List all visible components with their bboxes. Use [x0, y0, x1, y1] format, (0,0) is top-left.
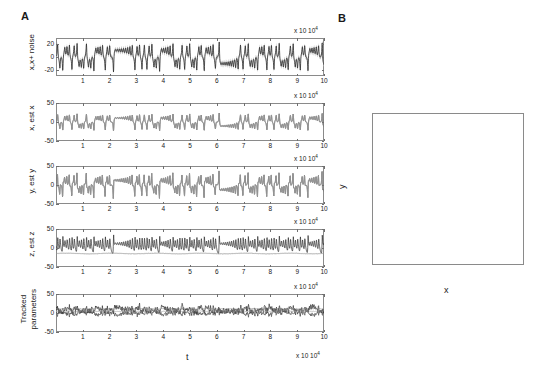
- y-tick-label: 50: [47, 226, 54, 233]
- x-exponent-label: x 10 104: [294, 92, 318, 99]
- x-tick-label: 1: [81, 334, 85, 341]
- y-tickmark: [56, 185, 59, 186]
- x-tick-label: 6: [215, 269, 219, 276]
- y-tickmark: [322, 185, 325, 186]
- y-tickmark: [322, 166, 325, 167]
- x-tickmark: [270, 166, 271, 169]
- x-tickmark: [190, 38, 191, 41]
- x-tick-label: 5: [188, 78, 192, 85]
- x-tickmark: [217, 229, 218, 232]
- plot-area: [56, 166, 324, 204]
- x-tick-label: 9: [295, 143, 299, 150]
- x-tick-label: 5: [188, 143, 192, 150]
- x-tick-label: 9: [295, 334, 299, 341]
- x-tickmark: [163, 103, 164, 106]
- x-tickmark: [190, 166, 191, 169]
- x-tickmark: [217, 103, 218, 106]
- x-tick-label: 5: [188, 269, 192, 276]
- x-tickmark: [136, 294, 137, 297]
- y-tick-label: -50: [45, 264, 54, 271]
- x-tickmark: [110, 294, 111, 297]
- y-tickmark: [56, 57, 59, 58]
- y-tick-label: 20: [47, 41, 54, 48]
- x-tick-label: 6: [215, 143, 219, 150]
- y-tick-label: -50: [45, 138, 54, 145]
- x-tick-label: 2: [108, 206, 112, 213]
- y-tickmark: [56, 332, 59, 333]
- x-tickmark: [83, 294, 84, 297]
- x-tick-label: 7: [242, 269, 246, 276]
- y-tickmark: [56, 70, 59, 71]
- y-tickmark: [322, 70, 325, 71]
- x-tick-label: 4: [161, 78, 165, 85]
- y-tick-label: 50: [47, 100, 54, 107]
- x-tickmark: [217, 294, 218, 297]
- x-tickmark: [136, 229, 137, 232]
- panel-a-xlabel: t: [186, 352, 189, 362]
- x-tickmark: [83, 103, 84, 106]
- x-tick-label: 5: [188, 334, 192, 341]
- x-tickmark: [324, 38, 325, 41]
- x-tick-label: 2: [108, 334, 112, 341]
- y-tickmark: [322, 313, 325, 314]
- x-tick-label: 8: [269, 269, 273, 276]
- y-tickmark: [322, 103, 325, 104]
- x-tickmark: [190, 103, 191, 106]
- x-tickmark: [297, 166, 298, 169]
- y-tick-label: 50: [47, 163, 54, 170]
- x-tick-label: 10: [320, 269, 327, 276]
- subplot-y-est-y: y, est y 12345678910500-50x 10 104: [56, 166, 324, 204]
- y-tickmark: [56, 204, 59, 205]
- x-tickmark: [136, 103, 137, 106]
- x-tickmark: [110, 103, 111, 106]
- x-tickmark: [297, 103, 298, 106]
- x-tickmark: [83, 229, 84, 232]
- x-tickmark: [244, 103, 245, 106]
- x-tick-label: 10: [320, 334, 327, 341]
- x-tickmark: [110, 229, 111, 232]
- x-tickmark: [297, 38, 298, 41]
- panel-b-ylabel: y: [338, 177, 347, 197]
- x-tick-label: 2: [108, 78, 112, 85]
- y-tick-label: 0: [50, 119, 54, 126]
- x-tick-label: 7: [242, 334, 246, 341]
- plot-area: [56, 229, 324, 267]
- x-tick-label: 7: [242, 78, 246, 85]
- x-tickmark: [136, 38, 137, 41]
- x-tickmark: [190, 229, 191, 232]
- x-tickmark: [270, 103, 271, 106]
- x-tickmark: [244, 166, 245, 169]
- x-tickmark: [163, 166, 164, 169]
- x-tickmark: [244, 294, 245, 297]
- ylabel-x-est-x: x, est x: [28, 86, 36, 150]
- x-tickmark: [136, 166, 137, 169]
- x-tick-label: 4: [161, 143, 165, 150]
- x-tick-label: 7: [242, 143, 246, 150]
- x-tickmark: [110, 38, 111, 41]
- x-tickmark: [297, 229, 298, 232]
- ylabel-tracked-line1: Tracked: [20, 277, 28, 341]
- x-tick-label: 8: [269, 78, 273, 85]
- x-tickmark: [163, 38, 164, 41]
- y-tickmark: [322, 141, 325, 142]
- x-tickmark: [83, 166, 84, 169]
- x-tick-label: 3: [135, 269, 139, 276]
- y-tickmark: [56, 229, 59, 230]
- x-tick-label: 10: [320, 143, 327, 150]
- x-tickmark: [163, 229, 164, 232]
- plot-area: [372, 113, 524, 265]
- y-tickmark: [322, 122, 325, 123]
- x-tick-label: 6: [215, 334, 219, 341]
- subplot-tracked-parameters: Tracked parameters 12345678910500-50x 10…: [56, 294, 324, 332]
- y-tick-label: -50: [45, 329, 54, 336]
- x-tickmark: [324, 166, 325, 169]
- x-tick-label: 3: [135, 334, 139, 341]
- y-tickmark: [322, 204, 325, 205]
- y-tickmark: [322, 44, 325, 45]
- x-tickmark: [324, 294, 325, 297]
- y-tick-label: -20: [45, 66, 54, 73]
- x-tickmark: [270, 229, 271, 232]
- y-tickmark: [322, 248, 325, 249]
- x-tickmark: [270, 294, 271, 297]
- ylabel-tracked-line2: parameters: [30, 277, 38, 341]
